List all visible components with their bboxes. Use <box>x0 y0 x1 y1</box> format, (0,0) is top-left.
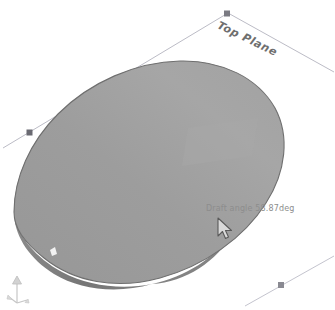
scene-graphics <box>0 0 335 310</box>
plane-boundary-upper-right[interactable] <box>228 13 334 72</box>
plane-handle-left[interactable] <box>27 130 33 136</box>
plane-boundary-lower-right[interactable] <box>245 256 334 306</box>
plane-handle-top[interactable] <box>224 11 230 17</box>
plane-handle-bottom-right[interactable] <box>278 282 284 288</box>
cad-viewport[interactable]: Top Plane Draft angle 58.87deg <box>0 0 335 310</box>
